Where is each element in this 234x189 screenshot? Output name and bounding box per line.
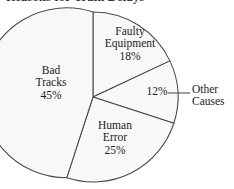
pie-chart-figure: Reasons for Train Delays Faulty Equipmen…	[0, 0, 234, 189]
pie-chart-graphic	[0, 0, 234, 189]
